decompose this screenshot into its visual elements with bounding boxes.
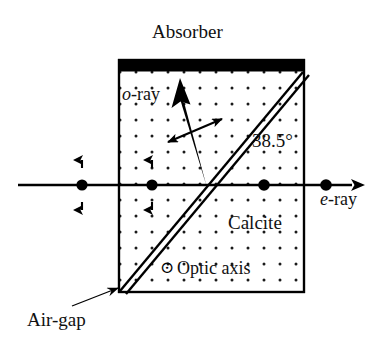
e-ray-label-suffix: -ray xyxy=(328,189,357,209)
o-ray-label-suffix: -ray xyxy=(131,84,160,104)
absorber-label: Absorber xyxy=(152,22,223,41)
absorber-bar xyxy=(120,60,304,72)
optic-axis-symbol-icon: ⊙ xyxy=(160,259,174,276)
o-ray-label: o-ray xyxy=(122,85,160,103)
e-ray-label-italic: e xyxy=(320,189,328,209)
optic-axis-label: Optic axis xyxy=(177,259,251,277)
o-ray-label-italic: o xyxy=(122,84,131,104)
air-gap-leader xyxy=(72,288,118,306)
eray-dot-inside xyxy=(258,179,270,191)
calcite-label: Calcite xyxy=(228,213,282,232)
incoming-dot xyxy=(76,179,87,190)
optics-diagram: Absorber o-ray 38.5° e-ray Calcite ⊙ Opt… xyxy=(0,0,380,345)
angle-label: 38.5° xyxy=(252,131,293,150)
air-gap-label: Air-gap xyxy=(27,310,86,329)
polarization-marker-incoming xyxy=(76,160,87,210)
inside-dot xyxy=(146,179,157,190)
e-ray-label: e-ray xyxy=(320,190,357,208)
diagram-canvas xyxy=(0,0,380,345)
